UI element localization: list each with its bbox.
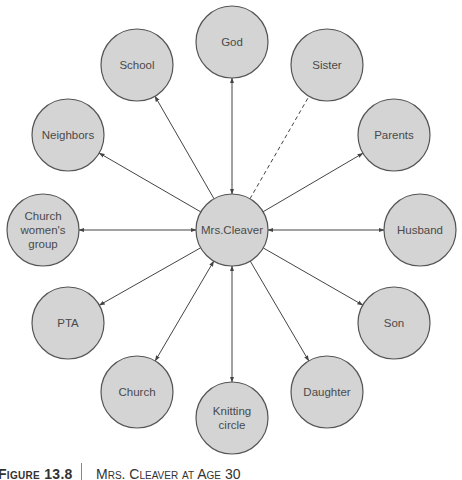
node-label: Church — [24, 210, 61, 222]
node-label: PTA — [57, 317, 79, 329]
node-label: group — [28, 238, 57, 250]
node-circle — [196, 382, 268, 454]
node-label: God — [221, 36, 243, 48]
node-label: Parents — [374, 129, 414, 141]
node-sister: Sister — [291, 29, 363, 101]
edge-daughter — [250, 261, 309, 361]
node-label: School — [119, 59, 154, 71]
figure-title: Mrs. Cleaver at Age 30 — [96, 466, 240, 480]
center-node: Mrs.Cleaver — [196, 194, 268, 266]
node-son: Son — [358, 287, 430, 359]
edge-neighbors — [99, 153, 201, 212]
node-neighbors: Neighbors — [32, 99, 104, 171]
node-label: Daughter — [303, 386, 350, 398]
edge-pta — [99, 248, 200, 305]
node-label: Neighbors — [42, 129, 95, 141]
figure-caption: Figure 13.8 Mrs. Cleaver at Age 30 — [0, 463, 462, 480]
node-label: Husband — [397, 224, 443, 236]
node-knitting-circle: Knittingcircle — [196, 382, 268, 454]
node-label: Sister — [312, 59, 342, 71]
node-label: Church — [118, 386, 155, 398]
node-label: circle — [219, 419, 246, 431]
nodes: GodSchoolSisterNeighborsParentsChurchwom… — [7, 6, 456, 454]
node-label: women's — [19, 224, 65, 236]
node-label: Knitting — [213, 405, 251, 417]
ecomap-diagram: GodSchoolSisterNeighborsParentsChurchwom… — [0, 0, 462, 460]
caption-divider — [81, 463, 82, 480]
edge-sister — [250, 96, 309, 199]
node-husband: Husband — [384, 194, 456, 266]
edge-parents — [263, 153, 363, 212]
node-parents: Parents — [358, 99, 430, 171]
node-label: Son — [384, 317, 404, 329]
node-school: School — [101, 29, 173, 101]
edge-son — [263, 248, 363, 305]
node-pta: PTA — [32, 287, 104, 359]
edge-church — [155, 261, 214, 361]
edge-school — [155, 96, 214, 199]
figure-number: Figure 13.8 — [0, 466, 73, 480]
node-daughter: Daughter — [291, 356, 363, 428]
node-church: Church — [101, 356, 173, 428]
node-label: Mrs.Cleaver — [201, 224, 263, 236]
node-church-womens-group: Churchwomen'sgroup — [7, 194, 79, 266]
node-god: God — [196, 6, 268, 78]
